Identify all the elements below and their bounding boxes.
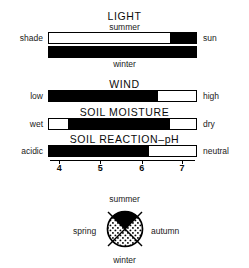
soil-moisture-right-label: dry	[203, 120, 215, 129]
light-right-label: sun	[203, 34, 217, 43]
light-section-heading: LIGHT	[0, 11, 249, 22]
light-summer-bar-row: shade sun	[48, 32, 197, 44]
soil-moisture-left-label: wet	[30, 120, 43, 129]
soil-moisture-bar	[48, 118, 197, 130]
wind-fill	[49, 91, 158, 101]
ph-axis: 4 5 6 7	[48, 160, 197, 176]
light-left-label: shade	[20, 34, 43, 43]
wind-left-label: low	[30, 92, 43, 101]
ph-tick-label: 7	[180, 164, 185, 173]
ph-tick-label: 6	[139, 164, 144, 173]
season-label-winter: winter	[113, 256, 136, 265]
ph-axis-line	[50, 160, 195, 161]
soil-moisture-section-heading: SOIL MOISTURE	[0, 107, 249, 118]
season-circle-icon	[99, 204, 151, 254]
soil-moisture-bar-row: wet dry	[48, 118, 197, 130]
light-winter-bar-row	[48, 46, 197, 58]
light-winter-bar	[48, 46, 197, 58]
wind-right-label: high	[203, 92, 219, 101]
season-label-autumn: autumn	[151, 227, 179, 236]
light-summer-fill	[170, 33, 196, 43]
light-winter-fill	[49, 47, 196, 57]
soil-reaction-bar-row: acidic neutral	[48, 145, 197, 157]
ph-tick-label: 4	[57, 164, 62, 173]
soil-reaction-fill	[49, 146, 149, 156]
soil-moisture-fill	[68, 119, 169, 129]
light-summer-sublabel: summer	[0, 23, 249, 32]
soil-reaction-right-label: neutral	[203, 147, 229, 156]
season-diagram: summer spring autumn winter	[0, 192, 249, 268]
light-winter-sublabel: winter	[0, 60, 249, 69]
soil-reaction-left-label: acidic	[21, 147, 43, 156]
season-label-spring: spring	[73, 227, 96, 236]
soil-reaction-bar	[48, 145, 197, 157]
soil-reaction-section-heading: SOIL REACTION–pH	[0, 134, 249, 145]
season-label-summer: summer	[109, 195, 140, 204]
wind-bar	[48, 90, 197, 102]
light-summer-bar	[48, 32, 197, 44]
wind-bar-row: low high	[48, 90, 197, 102]
wind-section-heading: WIND	[0, 79, 249, 90]
ph-tick-label: 5	[98, 164, 103, 173]
